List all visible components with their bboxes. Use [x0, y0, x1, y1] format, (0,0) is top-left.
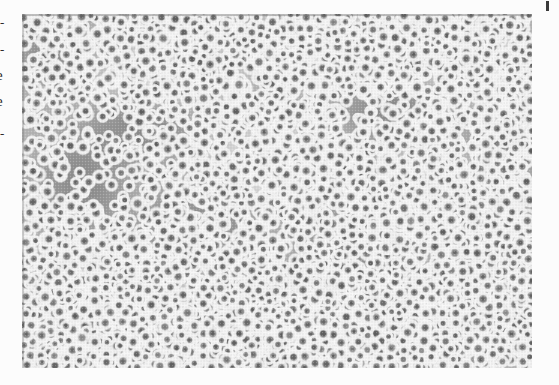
micrograph-image — [22, 14, 532, 368]
plate-edge-top — [22, 14, 532, 16]
margin-fragment-letter-1: e — [0, 68, 10, 83]
scanned-page: - - e e - — [0, 0, 559, 385]
scan-registration-tick-icon — [546, 1, 549, 11]
margin-fragment-dash-2: - — [0, 43, 11, 56]
margin-fragment-dash-1: - — [0, 16, 11, 29]
margin-fragment-letter-2: e — [0, 94, 10, 109]
margin-fragment-dash-3: - — [0, 127, 11, 140]
micrograph-figure — [22, 14, 532, 368]
plate-edge-left — [22, 14, 24, 368]
